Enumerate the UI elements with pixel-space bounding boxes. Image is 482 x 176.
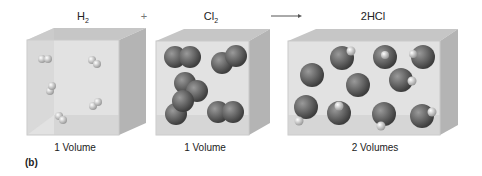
hcl-volume-label: 2 Volumes bbox=[335, 142, 415, 153]
reaction-arrow-icon bbox=[271, 14, 302, 18]
cl2-volume-label: 1 Volume bbox=[170, 142, 240, 153]
panel-label: (b) bbox=[25, 157, 38, 168]
h2-box bbox=[27, 28, 146, 135]
h2-volume-label: 1 Volume bbox=[40, 142, 110, 153]
